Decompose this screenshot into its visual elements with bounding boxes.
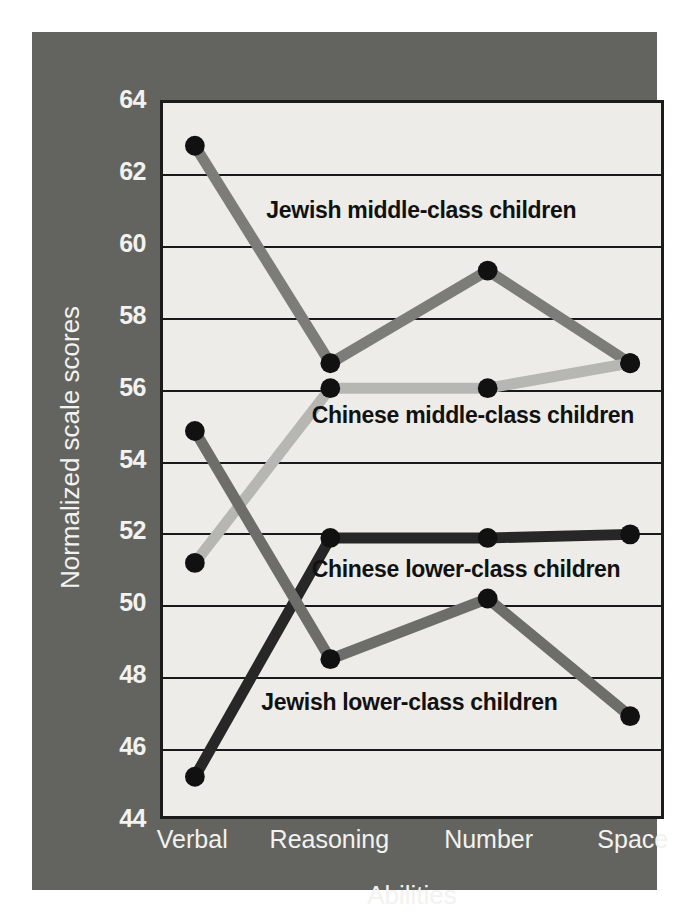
plot-area: Jewish middle-class childrenChinese midd… (160, 100, 664, 819)
data-point (320, 378, 340, 398)
series-label: Jewish lower-class children (261, 689, 557, 716)
y-tick-54: 54 (84, 445, 146, 474)
series-label: Jewish middle-class children (266, 197, 576, 224)
data-point (620, 524, 640, 544)
y-tick-52: 52 (84, 516, 146, 545)
data-point (185, 767, 205, 787)
data-point (478, 261, 498, 281)
y-tick-50: 50 (84, 588, 146, 617)
data-point (185, 553, 205, 573)
y-tick-58: 58 (84, 301, 146, 330)
series-label: Chinese middle-class children (312, 402, 634, 429)
data-point (320, 353, 340, 373)
y-tick-48: 48 (84, 660, 146, 689)
y-axis-label: Normalized scale scores (55, 298, 86, 598)
data-point (478, 528, 498, 548)
data-point (620, 706, 640, 726)
chart-panel: Normalized scale scores 4446485052545658… (32, 32, 657, 890)
series-line (195, 146, 630, 363)
data-point (320, 649, 340, 669)
x-axis-label: Abilities (160, 880, 664, 911)
data-point (320, 528, 340, 548)
data-point (620, 353, 640, 373)
y-tick-46: 46 (84, 732, 146, 761)
data-point (185, 136, 205, 156)
data-point (478, 378, 498, 398)
series-label: Chinese lower-class children (312, 556, 621, 583)
chart-figure: Normalized scale scores 4446485052545658… (0, 0, 690, 921)
y-tick-56: 56 (84, 373, 146, 402)
y-tick-60: 60 (84, 229, 146, 258)
y-tick-62: 62 (84, 157, 146, 186)
data-point (185, 421, 205, 441)
x-tick-reasoning: Reasoning (239, 825, 419, 854)
data-point (478, 589, 498, 609)
x-tick-space: Space (543, 825, 690, 854)
y-tick-64: 64 (84, 85, 146, 114)
